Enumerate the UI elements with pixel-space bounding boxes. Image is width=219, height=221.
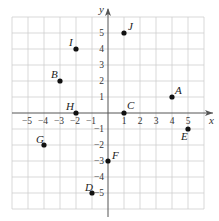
point-b-label: B xyxy=(51,68,58,80)
point-j xyxy=(121,30,126,35)
coordinate-plane: x y −5 −4 −3 −2 −1 1 2 3 4 5 5 4 3 2 1 −… xyxy=(0,0,219,221)
y-tick: −4 xyxy=(94,172,104,182)
point-b xyxy=(57,78,62,83)
point-i-label: I xyxy=(68,36,74,48)
points: A B C D E F G H I J xyxy=(36,20,191,196)
x-tick: 1 xyxy=(122,116,127,126)
x-tick: 2 xyxy=(138,116,143,126)
x-tick: −2 xyxy=(70,116,80,126)
y-tick: −1 xyxy=(94,124,104,134)
point-c xyxy=(121,110,126,115)
y-tick: 2 xyxy=(99,76,104,86)
point-f-label: F xyxy=(111,149,119,161)
point-g-label: G xyxy=(36,133,44,145)
y-tick: 4 xyxy=(99,44,104,54)
point-i xyxy=(73,46,78,51)
y-tick: 5 xyxy=(99,28,104,38)
point-j-label: J xyxy=(128,20,134,32)
x-tick-labels: −5 −4 −3 −2 −1 1 2 3 4 5 xyxy=(22,116,191,126)
point-d-label: D xyxy=(84,181,93,193)
x-tick: −5 xyxy=(22,116,32,126)
point-h-label: H xyxy=(65,100,75,112)
point-a xyxy=(169,94,174,99)
x-tick: 4 xyxy=(170,116,175,126)
y-axis-label: y xyxy=(98,3,104,15)
x-tick: 3 xyxy=(154,116,159,126)
y-tick: 3 xyxy=(99,60,104,70)
x-axis-label: x xyxy=(208,114,214,126)
y-tick: 1 xyxy=(99,92,104,102)
point-f xyxy=(105,158,110,163)
y-tick: −3 xyxy=(94,156,104,166)
point-h xyxy=(73,110,78,115)
x-tick: −4 xyxy=(38,116,48,126)
y-tick: −5 xyxy=(94,188,104,198)
point-e-label: E xyxy=(180,130,188,142)
point-a-label: A xyxy=(174,84,182,96)
x-tick: 5 xyxy=(186,116,191,126)
y-tick: −2 xyxy=(94,140,104,150)
point-c-label: C xyxy=(127,99,135,111)
x-tick: −3 xyxy=(54,116,64,126)
